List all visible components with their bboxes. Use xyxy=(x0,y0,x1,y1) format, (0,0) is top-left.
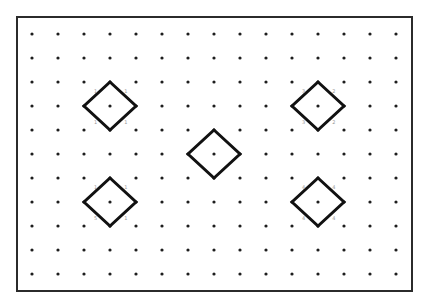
dot-grid xyxy=(30,32,397,275)
grid-dot xyxy=(264,32,267,35)
grid-dot xyxy=(30,104,33,107)
grid-dot xyxy=(394,32,397,35)
grid-dot xyxy=(394,248,397,251)
grid-dot xyxy=(368,56,371,59)
grid-dot xyxy=(290,32,293,35)
grid-dot xyxy=(134,56,137,59)
grid-dot xyxy=(56,152,59,155)
grid-dot xyxy=(56,176,59,179)
grid-dot xyxy=(160,152,163,155)
diamond-edge-label: 1 xyxy=(124,88,127,94)
grid-dot xyxy=(238,176,241,179)
diamond-edge-label: 2 xyxy=(332,88,335,94)
grid-dot xyxy=(186,272,189,275)
grid-dot xyxy=(368,176,371,179)
grid-dot xyxy=(212,104,215,107)
diamond-edge-label: 1 xyxy=(124,119,127,125)
grid-dot xyxy=(394,176,397,179)
grid-dot xyxy=(56,56,59,59)
grid-dot xyxy=(342,176,345,179)
grid-dot xyxy=(264,152,267,155)
diamond-edge-label: 3 xyxy=(302,119,305,125)
grid-dot xyxy=(30,56,33,59)
grid-dot xyxy=(160,80,163,83)
grid-dot xyxy=(264,200,267,203)
grid-dot xyxy=(108,56,111,59)
grid-dot xyxy=(394,104,397,107)
grid-dot xyxy=(342,152,345,155)
grid-dot xyxy=(238,200,241,203)
grid-dot xyxy=(368,128,371,131)
grid-dot xyxy=(368,32,371,35)
grid-dot xyxy=(160,272,163,275)
grid-dot xyxy=(212,152,215,155)
grid-dot xyxy=(394,200,397,203)
grid-dot xyxy=(264,104,267,107)
grid-dot xyxy=(212,248,215,251)
grid-dot xyxy=(264,80,267,83)
grid-dot xyxy=(186,32,189,35)
grid-dot xyxy=(160,56,163,59)
grid-dot xyxy=(160,32,163,35)
grid-dot xyxy=(238,56,241,59)
grid-dot xyxy=(342,248,345,251)
grid-dot xyxy=(342,32,345,35)
grid-dot xyxy=(186,248,189,251)
grid-dot xyxy=(134,152,137,155)
grid-dot xyxy=(368,272,371,275)
diamond-edge-label: 1 xyxy=(94,184,97,190)
grid-dot xyxy=(290,272,293,275)
grid-dot xyxy=(212,80,215,83)
grid-dot xyxy=(342,56,345,59)
grid-dot xyxy=(82,56,85,59)
grid-dot xyxy=(56,248,59,251)
grid-dot xyxy=(82,272,85,275)
grid-dot xyxy=(212,224,215,227)
grid-dot xyxy=(134,224,137,227)
grid-dot xyxy=(30,248,33,251)
grid-dot xyxy=(264,56,267,59)
grid-dot xyxy=(56,224,59,227)
grid-dot xyxy=(368,80,371,83)
grid-dot xyxy=(342,128,345,131)
diamond-edge-label: 5 xyxy=(94,215,97,221)
grid-dot xyxy=(238,80,241,83)
grid-dot xyxy=(134,32,137,35)
grid-dot xyxy=(368,248,371,251)
grid-dot xyxy=(394,128,397,131)
grid-dot xyxy=(264,272,267,275)
grid-dot xyxy=(56,128,59,131)
grid-dot xyxy=(290,176,293,179)
grid-dot xyxy=(30,200,33,203)
grid-dot xyxy=(290,152,293,155)
grid-dot xyxy=(160,248,163,251)
grid-dot xyxy=(316,152,319,155)
grid-dot xyxy=(186,128,189,131)
grid-dot xyxy=(108,32,111,35)
grid-dot xyxy=(134,128,137,131)
grid-dot xyxy=(394,80,397,83)
grid-dot xyxy=(368,104,371,107)
grid-dot xyxy=(108,272,111,275)
grid-dot xyxy=(108,248,111,251)
grid-dot xyxy=(30,224,33,227)
grid-dot xyxy=(82,176,85,179)
diamond-edge-label: 4 xyxy=(332,184,335,190)
grid-dot xyxy=(160,200,163,203)
grid-dot xyxy=(56,104,59,107)
grid-dot xyxy=(290,56,293,59)
grid-dot xyxy=(394,56,397,59)
grid-dot xyxy=(368,152,371,155)
grid-dot xyxy=(368,200,371,203)
grid-dot xyxy=(160,224,163,227)
grid-dot xyxy=(108,104,111,107)
grid-dot xyxy=(368,224,371,227)
grid-dot xyxy=(238,104,241,107)
grid-dot xyxy=(134,176,137,179)
grid-dot xyxy=(316,200,319,203)
diamond-edge-label: 1 xyxy=(124,215,127,221)
grid-dot xyxy=(316,272,319,275)
grid-dot xyxy=(82,128,85,131)
grid-dot xyxy=(186,200,189,203)
grid-dot xyxy=(316,32,319,35)
